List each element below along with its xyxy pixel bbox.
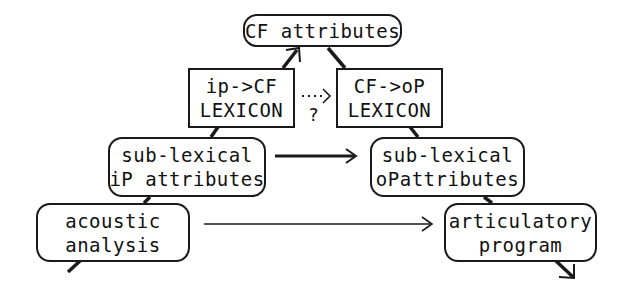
cf-attributes-label: CF attributes <box>245 19 400 43</box>
ip-cf-lexicon-node: ip->CF LEXICON <box>188 68 295 128</box>
cf-to-output-lexicon-edge <box>328 48 345 68</box>
acoustic-analysis-line2: analysis <box>65 233 161 257</box>
lexicon-dotted-arrowhead <box>323 89 330 103</box>
articulatory-program-node: articulatory program <box>444 203 597 262</box>
ip-cf-lexicon-line2: LEXICON <box>200 98 284 122</box>
cf-op-lexicon-node: CF->oP LEXICON <box>336 68 443 128</box>
ip-cf-lexicon-line1: ip->CF <box>206 74 278 98</box>
cf-attributes-node: CF attributes <box>243 14 402 47</box>
sublexical-ip-line2: iP attributes <box>109 167 264 191</box>
output-lexicon-to-sublexical-op-edge <box>410 127 418 137</box>
sublexical-ip-line1: sub-lexical <box>121 143 252 167</box>
articulatory-program-line1: articulatory <box>449 209 592 233</box>
articulatory-program-line2: program <box>479 233 563 257</box>
output-edge <box>556 261 573 277</box>
lexicon-to-cf-edge <box>283 50 297 68</box>
sublexical-ip-node: sub-lexical iP attributes <box>108 137 266 197</box>
acoustic-analysis-node: acoustic analysis <box>36 203 190 262</box>
sublexical-op-node: sub-lexical oPattributes <box>370 137 525 197</box>
dotted-link-question-mark: ? <box>308 106 319 124</box>
cf-op-lexicon-line1: CF->oP <box>354 74 426 98</box>
input-edge <box>68 261 80 272</box>
sublexical-op-line1: sub-lexical <box>382 143 513 167</box>
sublexical-op-line2: oPattributes <box>376 167 519 191</box>
cf-op-lexicon-line2: LEXICON <box>348 98 432 122</box>
acoustic-analysis-line1: acoustic <box>65 209 161 233</box>
sublexical-ip-to-lexicon-edge <box>211 127 218 137</box>
